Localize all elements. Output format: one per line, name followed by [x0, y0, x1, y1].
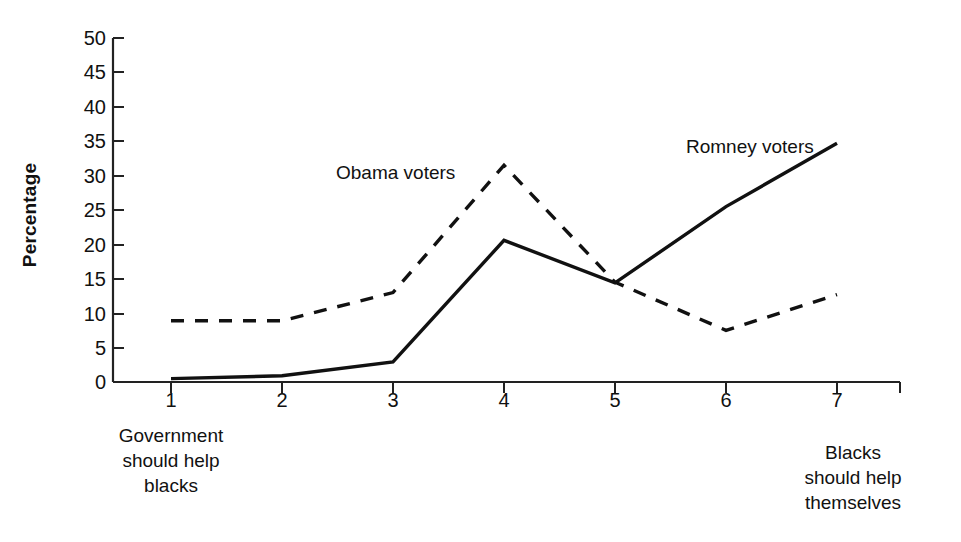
anchor-left-line-1: Government: [76, 423, 266, 448]
x-tick-label: 1: [141, 390, 201, 410]
anchor-right-line-2: should help: [758, 465, 948, 490]
x-tick-label: 4: [474, 390, 534, 410]
x-axis-anchor-right: Blacks should help themselves: [758, 440, 948, 515]
anchor-left-line-3: blacks: [76, 473, 266, 498]
x-tick-label: 7: [807, 390, 867, 410]
x-tick-label: 2: [252, 390, 312, 410]
series-label-romney-voters: Romney voters: [686, 137, 814, 156]
anchor-left-line-2: should help: [76, 448, 266, 473]
series-label-obama-voters: Obama voters: [336, 163, 455, 182]
anchor-right-line-3: themselves: [758, 490, 948, 515]
x-axis-anchor-left: Government should help blacks: [76, 423, 266, 498]
x-tick-label: 3: [363, 390, 423, 410]
anchor-right-line-1: Blacks: [758, 440, 948, 465]
x-tick-label: 5: [585, 390, 645, 410]
chart-figure: Percentage 50 45 40 35 30 25 20 15 10 5 …: [0, 0, 961, 542]
x-tick-label: 6: [696, 390, 756, 410]
